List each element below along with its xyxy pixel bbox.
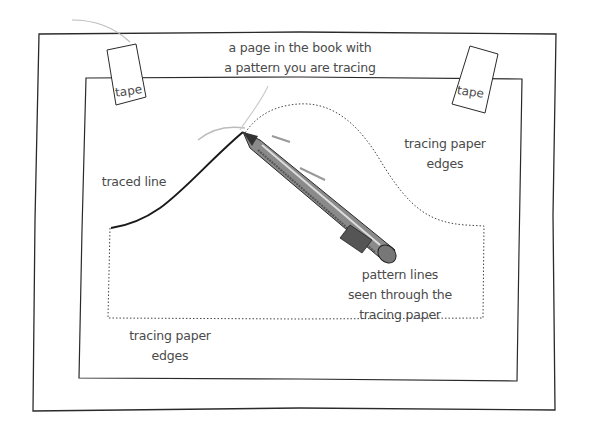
- pencil-motion-stroke: [240, 86, 268, 130]
- tape-motion-stroke: [72, 20, 130, 42]
- book-page-label: a page in the book with a pattern you ar…: [220, 38, 380, 78]
- pencil-icon: [243, 132, 400, 267]
- traced-line-label: traced line: [98, 172, 170, 192]
- pattern-lines-label-line-2: seen through the: [340, 285, 460, 305]
- book-page-label-line-1: a page in the book with: [220, 38, 380, 58]
- tracing-paper-edges-bottom-label: tracing paper edges: [120, 326, 220, 366]
- tracing-paper-edges-right-line-2: edges: [395, 154, 495, 174]
- pencil-motion-stroke: [198, 127, 245, 140]
- tracing-paper-edges-bottom-line-1: tracing paper: [120, 326, 220, 346]
- book-page-label-line-2: a pattern you are tracing: [220, 58, 380, 78]
- pattern-lines-label: pattern lines seen through the tracing p…: [340, 265, 460, 325]
- pattern-lines-label-line-3: tracing paper: [340, 305, 460, 325]
- tracing-paper-edges-bottom-line-2: edges: [120, 346, 220, 366]
- tape-right: [452, 46, 498, 113]
- tracing-paper-edges-right-label: tracing paper edges: [395, 134, 495, 174]
- tracing-paper-edges-right-line-1: tracing paper: [395, 134, 495, 154]
- pattern-lines-label-line-1: pattern lines: [340, 265, 460, 285]
